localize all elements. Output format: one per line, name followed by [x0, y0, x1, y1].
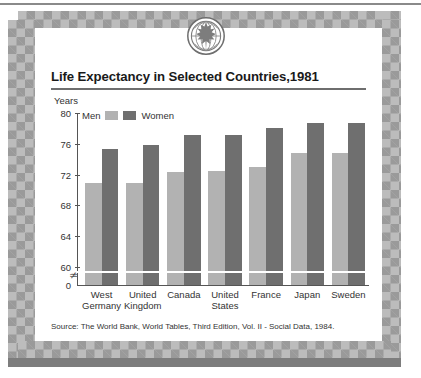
title-underline-rule: [51, 88, 366, 90]
decorative-border-left: [8, 20, 35, 358]
bar-stub-women-west-germany: [102, 273, 119, 285]
x-axis-category-label: United States: [204, 290, 245, 311]
bar-men-france: [249, 167, 266, 271]
y-axis-title: Years: [54, 95, 78, 106]
bar-stub-women-sweden: [348, 273, 365, 285]
decorative-border-bottom-strip: [18, 358, 401, 367]
chart-card: Life Expectancy in Selected Countries,19…: [8, 11, 411, 367]
source-note: Source: The World Bank, World Tables, Th…: [51, 322, 334, 331]
bar-stub-women-united-kingdom: [143, 273, 160, 285]
bar-men-united-kingdom: [126, 183, 143, 271]
bar-women-sweden: [348, 123, 365, 271]
bar-women-japan: [307, 123, 324, 271]
bar-stub-men-united-states: [208, 273, 225, 285]
bar-stub-men-west-germany: [85, 273, 102, 285]
x-axis-category-label: Sweden: [328, 290, 369, 301]
x-axis-category-label: Japan: [287, 290, 328, 301]
bar-stub-women-united-states: [225, 273, 242, 285]
bar-stub-women-france: [266, 273, 283, 285]
bar-men-west-germany: [85, 183, 102, 271]
bar-women-france: [266, 128, 283, 271]
y-axis-zero-label: 0: [51, 280, 71, 291]
y-axis-line: [77, 113, 78, 271]
globe-maple-leaf-logo: [186, 16, 226, 56]
chart-page: Life Expectancy in Selected Countries,19…: [35, 29, 382, 341]
bar-stub-women-canada: [184, 273, 201, 285]
y-axis-tick-mark: [75, 236, 80, 237]
bar-women-west-germany: [102, 149, 119, 271]
bar-women-canada: [184, 135, 201, 271]
bar-stub-women-japan: [307, 273, 324, 285]
top-separator-rule: [0, 3, 421, 5]
y-axis-tick-label: 76: [51, 138, 71, 149]
decorative-border-bottom-strip-left: [8, 358, 20, 367]
y-axis-tick-mark: [75, 113, 80, 114]
y-axis-tick-mark: [75, 144, 80, 145]
bar-women-united-states: [225, 135, 242, 271]
y-axis-tick-mark: [75, 205, 80, 206]
y-axis-tick-mark: [75, 267, 80, 268]
bar-men-canada: [167, 172, 184, 271]
y-axis-tick-label: 60: [51, 262, 71, 273]
bar-stub-men-japan: [291, 273, 308, 285]
x-axis-category-label: France: [246, 290, 287, 301]
bar-stub-men-canada: [167, 273, 184, 285]
y-axis-tick-label: 64: [51, 231, 71, 242]
y-axis-tick-label: 68: [51, 200, 71, 211]
bar-stub-men-united-kingdom: [126, 273, 143, 285]
y-axis-tick-mark: [75, 175, 80, 176]
bar-stub-men-france: [249, 273, 266, 285]
bar-men-united-states: [208, 171, 225, 271]
bar-stub-men-sweden: [332, 273, 349, 285]
bar-women-united-kingdom: [143, 145, 160, 271]
plot-area: 606468727680≄0West GermanyUnited Kingdom…: [51, 107, 371, 289]
x-axis-line: [77, 285, 369, 286]
x-axis-category-label: West Germany: [81, 290, 122, 311]
bar-men-sweden: [332, 153, 349, 271]
decorative-border-right: [382, 20, 401, 358]
page-title: Life Expectancy in Selected Countries,19…: [51, 69, 319, 84]
decorative-border-bottom: [18, 341, 391, 359]
x-axis-category-label: Canada: [163, 290, 204, 301]
bar-men-japan: [291, 153, 308, 271]
y-axis-tick-label: 80: [51, 108, 71, 119]
y-axis-tick-label: 72: [51, 169, 71, 180]
x-axis-category-label: United Kingdom: [122, 290, 163, 311]
